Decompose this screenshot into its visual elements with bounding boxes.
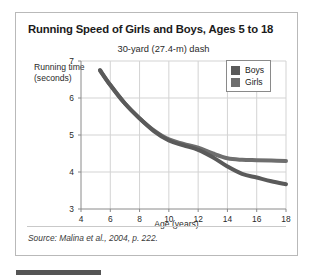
svg-text:5: 5 [69, 130, 74, 140]
svg-text:4: 4 [69, 167, 74, 177]
bottom-bar [16, 270, 101, 275]
svg-text:6: 6 [69, 93, 74, 103]
legend-item-boys: Boys [231, 64, 264, 76]
legend-swatch-girls [231, 78, 240, 87]
screenshot-root: Running Speed of Girls and Boys, Ages 5 … [0, 0, 314, 278]
legend-label-girls: Girls [245, 78, 263, 87]
chart-card: Running Speed of Girls and Boys, Ages 5 … [15, 12, 298, 256]
chart-legend: Boys Girls [226, 60, 271, 92]
legend-label-boys: Boys [245, 66, 264, 75]
x-axis-title: Age (years) [16, 219, 299, 229]
source-note: Source: Malina et al., 2004, p. 222. [28, 233, 158, 243]
legend-swatch-boys [231, 66, 240, 75]
chart-area: Running time(seconds) 345674681012141618… [16, 13, 299, 257]
svg-text:7: 7 [69, 56, 74, 66]
legend-item-girls: Girls [231, 76, 264, 88]
svg-text:3: 3 [69, 204, 74, 214]
source-divider [27, 226, 286, 227]
